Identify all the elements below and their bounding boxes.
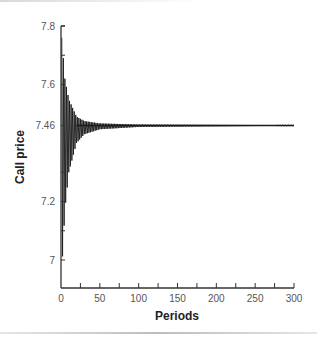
y-tick-label: 7.6 [41,79,55,90]
y-tick-label: 7.8 [41,21,55,32]
x-tick-label: 300 [286,293,303,304]
x-tick-label: 250 [247,293,264,304]
x-tick-label: 100 [130,293,147,304]
y-tick-label: 7.2 [41,196,55,207]
x-tick-label: 150 [169,293,186,304]
x-tick-label: 0 [58,293,64,304]
x-tick-label: 200 [208,293,225,304]
call-price-series [62,38,294,257]
y-tick-label: 7.46 [36,120,56,131]
y-tick-label: 7 [49,255,55,266]
x-axis-label: Periods [155,309,199,323]
bottom-divider [0,332,317,334]
y-axis-label: Call price [13,130,27,184]
call-price-chart: 77.27.467.67.8050100150200250300PeriodsC… [0,0,317,339]
plot-area [62,38,294,257]
x-tick-label: 50 [94,293,106,304]
